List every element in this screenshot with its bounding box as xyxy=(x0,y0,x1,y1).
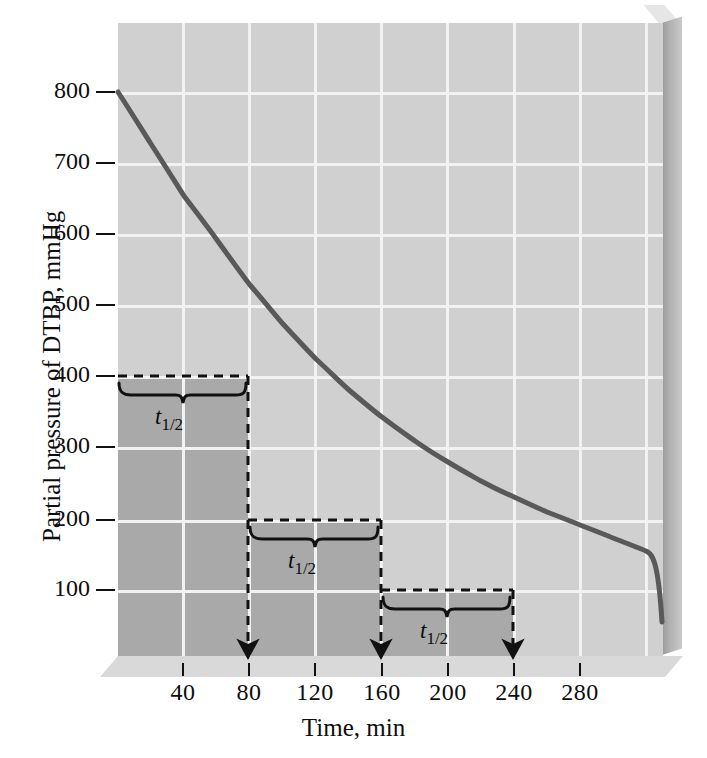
halflife-label-3: t1/2 xyxy=(420,618,448,649)
gridline-horizontal xyxy=(118,590,663,593)
gridline-horizontal xyxy=(118,520,663,523)
y-tick-mark xyxy=(96,446,115,448)
y-tick-mark xyxy=(96,162,115,164)
y-tick-mark xyxy=(96,375,115,377)
y-axis-title: Partial pressure of DTBP, mmHg xyxy=(38,211,66,542)
x-tick-mark xyxy=(447,663,449,676)
gridline-vertical xyxy=(248,23,251,656)
gridline-vertical xyxy=(579,23,582,656)
kinetics-chart-figure: t1/2 t1/2 t1/2 800 700 600 500 400 300 2… xyxy=(0,0,707,758)
x-axis-title: Time, min xyxy=(0,714,707,742)
gridline-vertical xyxy=(513,23,516,656)
x-tick-mark xyxy=(579,663,581,676)
gridline-vertical xyxy=(446,23,449,656)
halflife-label-2: t1/2 xyxy=(288,548,316,579)
gridline-horizontal xyxy=(118,305,663,308)
halflife-label-1-sub: 1/2 xyxy=(161,415,183,434)
x-tick-mark xyxy=(182,663,184,676)
y-tick-mark xyxy=(96,304,115,306)
y-tick-label-700: 700 xyxy=(14,148,90,175)
y-tick-mark xyxy=(96,91,115,93)
gridline-vertical xyxy=(380,23,383,656)
halflife-label-2-sub: 1/2 xyxy=(294,559,316,578)
y-tick-label-800: 800 xyxy=(14,77,90,104)
x-tick-label-80: 80 xyxy=(214,679,284,706)
x-tick-label-240: 240 xyxy=(479,679,549,706)
x-tick-label-40: 40 xyxy=(148,679,218,706)
chart-3d-bottom-shelf xyxy=(100,656,683,677)
x-tick-mark xyxy=(513,663,515,676)
gridline-horizontal xyxy=(118,234,663,237)
y-tick-mark xyxy=(96,233,115,235)
gridline-horizontal xyxy=(118,376,663,379)
gridline-horizontal xyxy=(118,163,663,166)
x-tick-mark xyxy=(314,663,316,676)
halflife-label-1: t1/2 xyxy=(155,404,183,435)
x-tick-mark xyxy=(381,663,383,676)
gridline-horizontal xyxy=(118,92,663,95)
plot-inner xyxy=(118,23,663,656)
halflife-label-3-sub: 1/2 xyxy=(426,629,448,648)
gridline-horizontal xyxy=(118,447,663,450)
y-tick-mark xyxy=(96,519,115,521)
x-tick-label-280: 280 xyxy=(545,679,615,706)
x-tick-label-160: 160 xyxy=(347,679,417,706)
y-tick-mark xyxy=(96,589,115,591)
gridline-vertical xyxy=(645,23,648,656)
x-tick-label-200: 200 xyxy=(413,679,483,706)
chart-3d-right-panel xyxy=(662,17,682,655)
x-tick-label-120: 120 xyxy=(280,679,350,706)
plot-area xyxy=(118,23,663,656)
gridline-vertical xyxy=(182,23,185,656)
x-tick-mark xyxy=(248,663,250,676)
y-tick-label-100: 100 xyxy=(14,575,90,602)
